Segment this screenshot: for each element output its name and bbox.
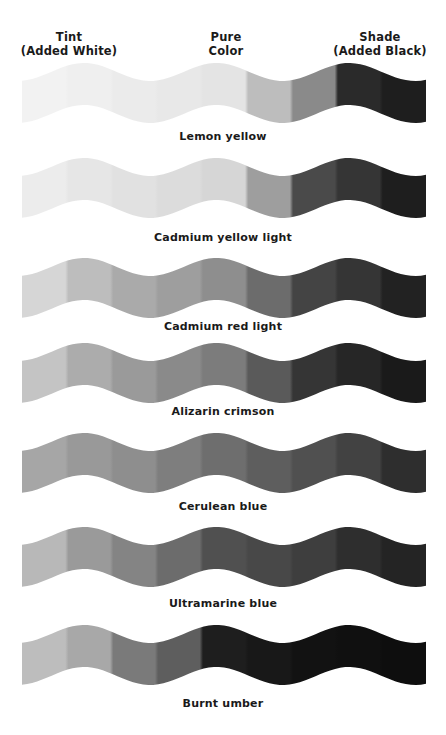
color-strip [0, 58, 446, 130]
tint-shade-swatch [0, 253, 446, 325]
strip-label: Burnt umber [0, 697, 446, 710]
header-pure-line2: Color [196, 44, 256, 58]
tint-shade-swatch [0, 428, 446, 500]
tint-shade-swatch [0, 620, 446, 692]
color-strip [0, 620, 446, 692]
header-shade-line2: (Added Black) [330, 44, 430, 58]
header-pure-color: Pure Color [196, 30, 256, 58]
color-strip [0, 522, 446, 594]
strip-label: Lemon yellow [0, 130, 446, 143]
header-shade: Shade (Added Black) [330, 30, 430, 58]
strip-label: Cadmium yellow light [0, 231, 446, 244]
tint-shade-swatch [0, 58, 446, 130]
tint-shade-swatch [0, 338, 446, 410]
header-tint-line1: Tint [14, 30, 124, 44]
tint-shade-swatch [0, 522, 446, 594]
strip-label: Cerulean blue [0, 500, 446, 513]
strip-label: Cadmium red light [0, 320, 446, 333]
color-strip [0, 338, 446, 410]
color-strip [0, 153, 446, 225]
color-strip [0, 428, 446, 500]
strip-label: Alizarin crimson [0, 405, 446, 418]
header-pure-line1: Pure [196, 30, 256, 44]
header-tint-line2: (Added White) [14, 44, 124, 58]
tint-shade-swatch [0, 153, 446, 225]
header-tint: Tint (Added White) [14, 30, 124, 58]
header-shade-line1: Shade [330, 30, 430, 44]
strip-label: Ultramarine blue [0, 597, 446, 610]
color-strip [0, 253, 446, 325]
